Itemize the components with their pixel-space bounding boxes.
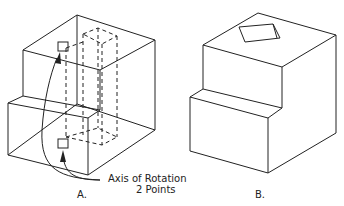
a-hidden-slot-bottom xyxy=(66,128,117,145)
b-bottom-front xyxy=(190,151,268,173)
a-arrow-curve-bottom xyxy=(63,156,100,180)
a-annotation-line2: 2 Points xyxy=(136,184,176,195)
a-point-marker-bottom xyxy=(58,139,68,148)
a-top-face xyxy=(23,15,155,70)
b-bottom-right xyxy=(268,133,336,173)
a-figure-label: A. xyxy=(77,189,87,200)
a-hidden-top-link xyxy=(66,42,83,48)
figure-a: Axis of Rotation 2 Points A. xyxy=(8,15,187,200)
a-hidden-slot-top xyxy=(83,28,117,44)
b-top-face xyxy=(203,13,336,67)
b-figure-label: B. xyxy=(255,189,265,200)
a-arrow-head-bottom xyxy=(60,150,66,162)
a-bottom-front xyxy=(8,155,88,175)
figure-b: B. xyxy=(190,13,336,200)
a-bottom-right xyxy=(88,130,155,175)
b-step-ledge xyxy=(190,89,282,118)
a-arrow-curve-top xyxy=(42,58,100,180)
a-arrow-head-top xyxy=(55,52,61,64)
diagram-canvas: Axis of Rotation 2 Points A. B. xyxy=(0,0,344,206)
a-annotation-line1: Axis of Rotation xyxy=(108,173,187,184)
